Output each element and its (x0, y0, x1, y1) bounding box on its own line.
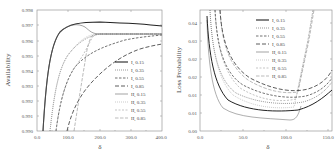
y-tick-label: 0.04 (188, 21, 197, 26)
curves (207, 10, 332, 120)
x-tick-label: 50.0 (239, 135, 248, 140)
left-y-axis: 0.990 0.991 0.992 0.993 0.994 0.995 0.99… (22, 8, 34, 134)
availability-chart: 0.990 0.991 0.992 0.993 0.994 0.995 0.99… (0, 0, 168, 153)
legend-label: II, 0.35 (272, 58, 287, 64)
y-tick-label: 0.00 (188, 129, 197, 134)
y-tick-label: 0.991 (22, 114, 34, 119)
legend-label: I, 0.15 (272, 18, 285, 24)
y-tick-label: 0.992 (22, 99, 34, 104)
y-tick-label: 0.998 (22, 8, 34, 13)
y-tick-label: 0.997 (22, 23, 34, 28)
y-axis-label: Loss Probability (175, 46, 183, 93)
x-axis-label: δ (266, 143, 270, 151)
legend-label: I, 0.35 (272, 26, 285, 32)
right-x-axis: 0.0 50.0 100.0 150.0 (197, 135, 334, 140)
x-axis-label: δ (98, 143, 102, 151)
y-tick-label: 0.02 (188, 75, 197, 80)
legend-label: I, 0.85 (131, 84, 144, 90)
series-II-0.15 (207, 20, 301, 120)
legend-label: II, 0.15 (131, 92, 146, 98)
y-tick-label: 0.01 (188, 111, 197, 116)
left-x-axis: 0.0 100.0 200.0 300.0 400.0 (34, 135, 167, 140)
curves (43, 22, 162, 131)
legend-label: I, 0.15 (131, 60, 144, 66)
y-tick-label: 0.995 (22, 54, 34, 59)
y-tick-label: 0.990 (22, 129, 34, 134)
series-I-0.15 (207, 16, 332, 111)
series-I-0.15 (43, 22, 162, 131)
x-tick-label: 0.0 (34, 135, 41, 140)
legend: I, 0.15 I, 0.35 I, 0.55 I, 0.85 II, 0.15… (115, 60, 146, 122)
x-tick-label: 100.0 (280, 135, 292, 140)
legend-label: II, 0.35 (131, 100, 146, 106)
legend-label: II, 0.55 (131, 108, 146, 114)
x-tick-label: 150.0 (322, 135, 334, 140)
x-tick-label: 300.0 (125, 135, 137, 140)
y-tick-label: 0.01 (188, 93, 197, 98)
y-axis-label: Availability (4, 53, 12, 86)
loss-probability-chart: 0.00 0.01 0.01 0.02 0.02 0.03 0.04 Loss … (168, 0, 336, 153)
y-tick-label: 0.993 (22, 84, 34, 89)
legend-label: I, 0.85 (272, 42, 285, 48)
y-tick-label: 0.03 (188, 39, 197, 44)
legend-label: I, 0.55 (272, 34, 285, 40)
legend-label: I, 0.35 (131, 68, 144, 74)
legend-label: II, 0.15 (272, 50, 287, 56)
x-tick-label: 200.0 (94, 135, 106, 140)
y-tick-label: 0.994 (22, 69, 34, 74)
legend-label: II, 0.55 (272, 66, 287, 72)
y-tick-label: 0.996 (22, 39, 34, 44)
series-I-0.85 (67, 44, 162, 131)
series-II-0.55 (56, 34, 162, 131)
y-tick-label: 0.02 (188, 57, 197, 62)
x-tick-label: 100.0 (62, 135, 74, 140)
x-tick-label: 400.0 (155, 135, 167, 140)
series-II-0.85 (74, 34, 162, 131)
x-tick-label: 0.0 (197, 135, 204, 140)
legend-label: II, 0.85 (131, 116, 146, 122)
series-II-0.35 (210, 10, 313, 108)
legend: I, 0.15 I, 0.35 I, 0.55 I, 0.85 II, 0.15… (256, 18, 287, 80)
series-I-0.55 (56, 35, 162, 131)
legend-label: II, 0.85 (272, 74, 287, 80)
right-y-axis: 0.00 0.01 0.01 0.02 0.02 0.03 0.04 (188, 21, 197, 134)
legend-label: I, 0.55 (131, 76, 144, 82)
